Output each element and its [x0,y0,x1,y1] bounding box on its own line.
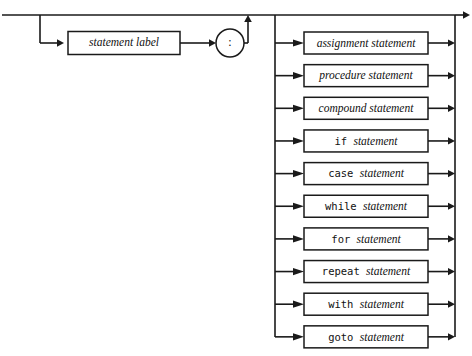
alternative-row: compound statement [275,97,455,119]
branch-entry-arrow-icon [293,333,304,340]
alternative-row: while statement [275,195,455,217]
alternative-label-text: with statement [328,298,404,310]
label-to-colon-connector [180,39,216,47]
alternative-term: statement [360,330,405,342]
node-colon-terminal: : [216,29,244,57]
branch-entry-arrow-icon [293,137,304,144]
branch-exit-arrow-icon [448,72,455,79]
alternative-label-text: repeat statement [322,265,411,277]
alternative-term: statement [357,232,402,244]
alternative-label-text: goto statement [328,330,404,342]
alternative-keyword: while [325,200,363,212]
alternative-row: procedure statement [275,65,455,87]
alternative-term: statement [353,134,398,146]
alternative-term: statement [363,200,408,212]
statement-label-text: statement label [89,36,159,48]
branch-entry-arrow-icon [293,268,304,275]
alternative-term: assignment statement [317,36,417,49]
alternative-label-text: assignment statement [317,36,417,49]
alternative-label-text: case statement [328,167,404,179]
alternative-row: repeat statement [275,261,455,283]
syntax-diagram-statement: statement label : assignment statementpr… [0,0,472,356]
alternative-label-text: if statement [334,134,398,146]
branch-exit-arrow-icon [448,268,455,275]
branch-entry-arrow-icon [293,203,304,210]
alternative-row: assignment statement [275,32,455,54]
label-entry-arrow-icon [57,39,64,47]
alternative-term: statement [366,265,411,277]
exit-arrow-icon [463,11,470,19]
branch-exit-arrow-icon [448,170,455,177]
railroad-diagram-canvas: statement label : assignment statementpr… [0,0,472,356]
colon-rejoin-rail [244,15,252,43]
alternative-row: with statement [275,293,455,315]
branch-exit-arrow-icon [448,39,455,46]
colon-entry-arrow-icon [209,39,216,47]
alternative-row: if statement [275,130,455,152]
node-statement-label: statement label [68,32,180,55]
alternative-row: goto statement [275,326,455,348]
branch-exit-arrow-icon [448,235,455,242]
branch-entry-arrow-icon [293,235,304,242]
statement-label-branch [40,15,64,47]
alternative-term: statement [360,298,405,310]
branch-exit-arrow-icon [448,137,455,144]
branch-exit-arrow-icon [448,301,455,308]
branch-entry-arrow-icon [293,170,304,177]
alternative-keyword: if [334,135,353,147]
alternative-label-text: while statement [325,200,408,212]
alternative-label-text: for statement [331,232,401,244]
alternative-row: for statement [275,228,455,250]
rejoin-up-arrow-icon [244,15,252,22]
alternative-keyword: case [328,167,360,179]
alternative-keyword: goto [328,331,360,343]
alternative-rows-group: assignment statementprocedure statementc… [275,32,455,348]
alternative-label-text: compound statement [319,102,415,115]
alternative-keyword: for [331,233,356,245]
alternative-term: statement [360,167,405,179]
branch-entry-arrow-icon [293,72,304,79]
alternative-keyword: repeat [322,265,366,277]
colon-text: : [228,35,231,49]
branch-entry-arrow-icon [293,105,304,112]
branch-exit-arrow-icon [448,203,455,210]
alternative-term: compound statement [319,102,415,115]
alternative-row: case statement [275,163,455,185]
alternative-keyword: with [328,298,360,310]
branch-exit-arrow-icon [448,333,455,340]
main-entry-rail [2,11,470,19]
alternative-label-text: procedure statement [318,69,413,82]
branch-entry-arrow-icon [293,39,304,46]
branch-entry-arrow-icon [293,301,304,308]
alternative-term: procedure statement [318,69,413,82]
branch-exit-arrow-icon [448,105,455,112]
